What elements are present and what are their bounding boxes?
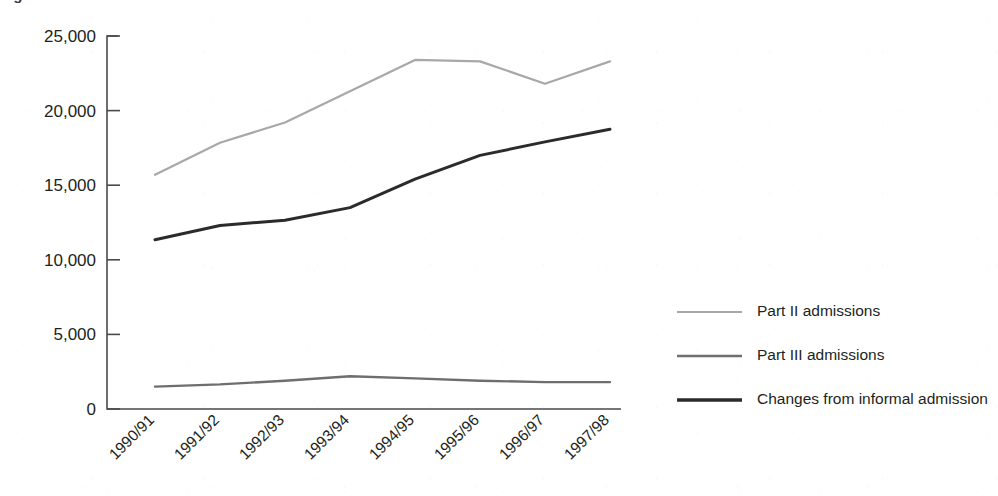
line-chart-plot: 05,00010,00015,00020,00025,000 1990/9119… — [0, 0, 998, 496]
x-axis-tick-label: 1992/93 — [235, 411, 287, 463]
chart-figure: Figure 05,00010,00015,00020,00025,000 19… — [0, 0, 998, 496]
chart-legend: Part II admissionsPart III admissionsCha… — [677, 302, 988, 407]
legend-label: Part II admissions — [757, 302, 880, 319]
series-line — [155, 129, 610, 239]
legend-label: Changes from informal admission — [757, 390, 988, 407]
chart-series-lines — [155, 60, 610, 387]
x-axis-tick-label: 1994/95 — [365, 411, 417, 463]
y-axis-tick-marks — [107, 36, 120, 409]
y-axis-tick-label: 25,000 — [44, 27, 96, 46]
x-axis-tick-label: 1991/92 — [170, 411, 222, 463]
series-line — [155, 60, 610, 175]
x-axis-tick-label: 1997/98 — [560, 411, 612, 463]
y-axis-tick-label: 0 — [87, 400, 96, 419]
x-axis-tick-label: 1993/94 — [300, 411, 352, 463]
legend-label: Part III admissions — [757, 346, 885, 363]
y-axis-tick-label: 15,000 — [44, 176, 96, 195]
y-axis-tick-label: 10,000 — [44, 251, 96, 270]
x-axis-tick-label: 1996/97 — [495, 411, 547, 463]
chart-axes — [107, 36, 621, 409]
y-axis-tick-label: 20,000 — [44, 102, 96, 121]
x-axis-tick-label: 1990/91 — [105, 411, 157, 463]
y-axis-tick-label: 5,000 — [53, 325, 96, 344]
y-axis-labels: 05,00010,00015,00020,00025,000 — [44, 27, 96, 419]
series-line — [155, 376, 610, 386]
x-axis-labels: 1990/911991/921992/931993/941994/951995/… — [105, 411, 612, 463]
x-axis-tick-label: 1995/96 — [430, 411, 482, 463]
